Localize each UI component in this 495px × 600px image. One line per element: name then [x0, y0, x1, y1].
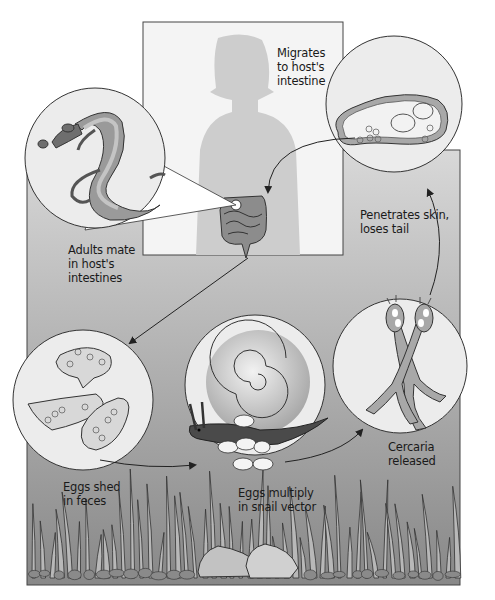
pebble — [445, 571, 460, 577]
pebble — [84, 570, 95, 580]
pebble — [39, 570, 49, 576]
pebble — [167, 570, 182, 579]
pebble — [179, 570, 194, 579]
pebble — [138, 568, 152, 577]
pebble — [321, 572, 335, 579]
pebble — [109, 569, 124, 577]
pebble — [304, 570, 317, 580]
penetration-circle — [326, 36, 462, 172]
pebble — [333, 571, 345, 577]
eggs-in-feces-circle — [13, 330, 153, 470]
pebble — [54, 571, 64, 579]
pebble — [419, 571, 431, 579]
label-cercaria-released: Cercaria released — [388, 440, 436, 468]
pebble — [393, 572, 405, 580]
pebble — [68, 570, 81, 580]
label-eggs-multiply: Eggs multiply in snail vector — [238, 486, 316, 514]
pebble — [361, 570, 372, 579]
label-eggs-shed: Eggs shed in feces — [63, 480, 120, 508]
label-adults-mate: Adults mate in host's intestines — [68, 243, 135, 285]
adult-worm-circle — [25, 88, 165, 228]
pebble — [151, 572, 167, 580]
pebble — [433, 571, 443, 580]
pebble — [408, 571, 419, 578]
label-migrates: Migrates to host's intestine — [277, 46, 325, 88]
pebble — [124, 569, 139, 579]
pebble — [28, 570, 40, 577]
label-penetrates-skin: Penetrates skin, loses tail — [360, 208, 449, 236]
pebble — [375, 569, 389, 577]
